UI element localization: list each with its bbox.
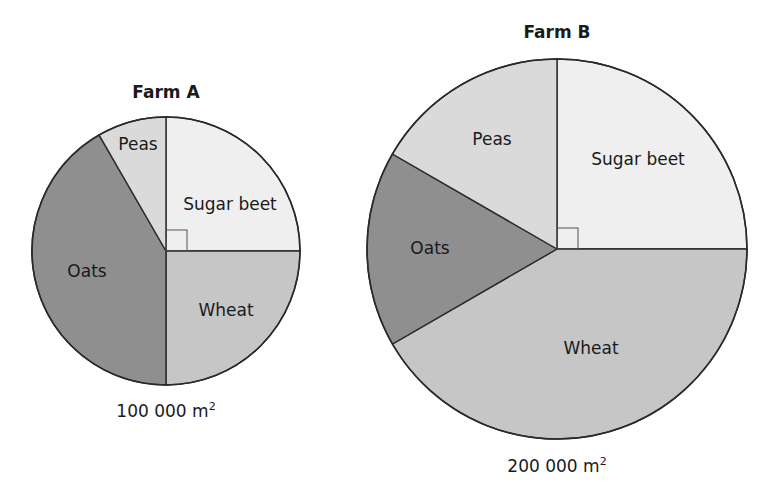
chart-stage: Sugar beetWheatOatsPeasSugar beetWheatOa… [0,0,768,500]
slice-label-peas: Peas [118,134,158,154]
pie-charts-canvas: Sugar beetWheatOatsPeasSugar beetWheatOa… [0,0,768,500]
slice-label-sugar-beet: Sugar beet [183,194,277,214]
pie-farm-a: Sugar beetWheatOatsPeas [32,117,300,385]
pie-farm-b: Sugar beetWheatOatsPeas [367,59,747,439]
slice-label-oats: Oats [67,261,106,281]
slice-sugar-beet [166,117,300,251]
slice-label-wheat: Wheat [198,300,253,320]
farm-b-title: Farm B [523,22,590,42]
slice-label-oats: Oats [410,238,449,258]
slice-label-peas: Peas [472,129,512,149]
farm-a-area-label: 100 000 m2 [116,400,215,421]
farm-b-area-label: 200 000 m2 [507,455,606,476]
slice-label-wheat: Wheat [563,338,618,358]
slice-label-sugar-beet: Sugar beet [591,149,685,169]
farm-a-title: Farm A [132,82,199,102]
